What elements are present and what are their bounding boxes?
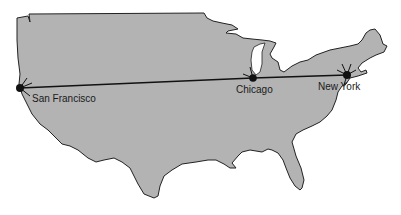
city-label-chicago: Chicago — [236, 84, 273, 95]
city-label-san-francisco: San Francisco — [32, 93, 96, 104]
us-map: San Francisco Chicago New York — [0, 0, 401, 215]
us-landmass — [17, 13, 387, 198]
city-label-new-york: New York — [318, 81, 361, 92]
